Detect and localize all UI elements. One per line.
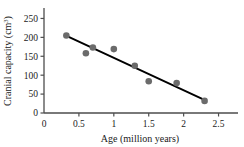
- y-tick-label: 200: [24, 33, 39, 43]
- x-tick-label: 2.5: [213, 119, 225, 129]
- data-point: [145, 78, 152, 85]
- data-point: [111, 46, 118, 53]
- y-axis-title: Cranial capacity (cm3): [2, 16, 14, 106]
- x-tick-label: 0: [42, 119, 47, 129]
- x-axis-title: Age (million years): [101, 133, 179, 145]
- scatter-plot-canvas: 05010015020025000.511.522.5Age (million …: [0, 0, 244, 147]
- y-tick-label: 50: [29, 89, 39, 99]
- data-point: [63, 32, 70, 39]
- data-point: [201, 98, 208, 105]
- y-tick-label: 150: [24, 52, 39, 62]
- cranial-capacity-scatter-figure: 05010015020025000.511.522.5Age (million …: [0, 0, 244, 147]
- x-tick-label: 1: [111, 119, 116, 129]
- x-tick-label: 2: [181, 119, 186, 129]
- x-tick-label: 0.5: [73, 119, 85, 129]
- data-point: [173, 80, 180, 87]
- data-point: [131, 62, 138, 69]
- y-tick-label: 250: [24, 14, 39, 24]
- x-tick-label: 1.5: [143, 119, 155, 129]
- y-axis-title-close: ): [2, 16, 14, 19]
- data-point: [90, 44, 97, 51]
- data-point: [83, 50, 90, 57]
- y-tick-label: 100: [24, 71, 39, 81]
- y-tick-label: 0: [33, 108, 38, 118]
- y-axis-title-main: Cranial capacity (cm: [2, 22, 14, 106]
